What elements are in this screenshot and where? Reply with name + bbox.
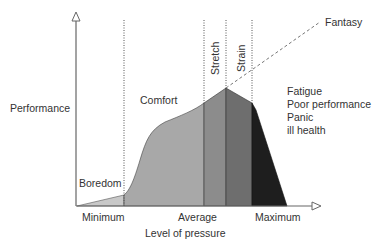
comfort-region (124, 103, 204, 206)
effect-panic: Panic (287, 111, 313, 123)
effect-poor-performance: Poor performance (287, 98, 371, 110)
boredom-region (77, 195, 124, 206)
breakdown-region (252, 103, 287, 206)
stretch-region (204, 88, 226, 206)
x-axis-arrow-icon (312, 202, 321, 210)
x-tick-minimum: Minimum (82, 211, 125, 223)
fantasy-label: Fantasy (325, 16, 363, 28)
pressure-performance-diagram: Performance Comfort Boredom Stretch Stra… (0, 0, 381, 245)
x-tick-average: Average (178, 211, 217, 223)
y-axis-label: Performance (10, 102, 70, 114)
stretch-label: Stretch (209, 42, 221, 75)
strain-region (226, 88, 252, 206)
strain-label: Strain (235, 44, 247, 72)
y-axis-arrow-icon (72, 12, 80, 21)
effect-ill-health: ill health (287, 124, 326, 136)
effect-fatigue: Fatigue (287, 85, 322, 97)
x-axis-label: Level of pressure (145, 227, 226, 239)
boredom-label: Boredom (79, 177, 122, 189)
x-tick-maximum: Maximum (255, 211, 301, 223)
comfort-label: Comfort (140, 94, 177, 106)
